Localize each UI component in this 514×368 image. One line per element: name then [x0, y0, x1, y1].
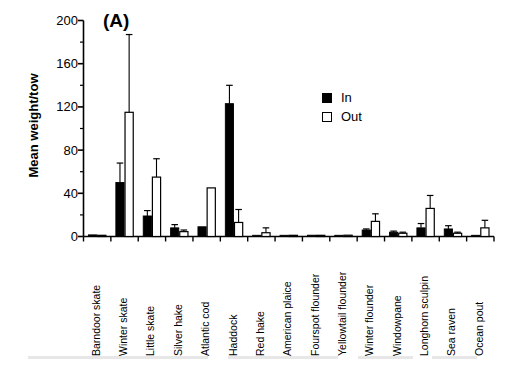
- open-square-icon: [322, 112, 332, 122]
- x-tick-label: Sea raven: [446, 308, 457, 356]
- x-tick-label: Winter flounder: [364, 285, 375, 356]
- x-tick-label: Atlantic cod: [200, 302, 211, 356]
- legend-item: In: [322, 88, 362, 107]
- x-tick-label: Fourspot flounder: [310, 274, 321, 356]
- x-tick-label: American plaice: [282, 281, 293, 356]
- legend: InOut: [322, 88, 362, 126]
- x-tick-label: Winter skate: [118, 298, 129, 356]
- scan-artifact: [28, 356, 208, 359]
- x-tick-label: Red hake: [255, 311, 266, 356]
- x-tick-label: Windowpane: [392, 295, 403, 356]
- x-tick-label: Silver hake: [173, 304, 184, 356]
- x-tick-label: Ocean pout: [474, 302, 485, 356]
- chart-figure: Mean weight/tow (A) 04080120160200 Barnd…: [0, 0, 514, 368]
- scan-artifact: [432, 356, 477, 359]
- legend-item: Out: [322, 107, 362, 126]
- x-tick-label: Haddock: [228, 315, 239, 356]
- scan-artifact: [358, 356, 413, 359]
- x-tick-label: Longhorn sculpin: [419, 276, 430, 356]
- x-tick-label: Barndoor skate: [91, 285, 102, 356]
- x-tick-label: Little skate: [145, 306, 156, 356]
- scan-artifact: [228, 356, 338, 359]
- legend-label: Out: [341, 110, 362, 123]
- legend-label: In: [341, 91, 352, 104]
- filled-square-icon: [322, 93, 332, 103]
- x-axis-tick-labels: Barndoor skateWinter skateLittle skateSi…: [0, 0, 514, 368]
- x-tick-label: Yellowtail flounder: [337, 272, 348, 356]
